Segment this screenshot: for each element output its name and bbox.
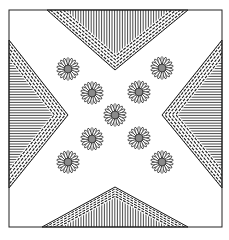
daisy-icon <box>128 81 151 104</box>
daisy-icon <box>81 128 104 151</box>
daisy-icon <box>81 82 104 105</box>
pattern-artwork <box>0 0 229 240</box>
daisy-icon <box>57 151 80 174</box>
daisy-icon <box>128 127 151 150</box>
daisy-icon <box>151 151 174 174</box>
daisy-flowers <box>57 57 174 174</box>
daisy-icon <box>104 104 127 127</box>
daisy-icon <box>57 58 80 81</box>
daisy-icon <box>151 57 174 80</box>
wedge-left <box>0 40 68 188</box>
wedge-bottom <box>42 187 188 236</box>
